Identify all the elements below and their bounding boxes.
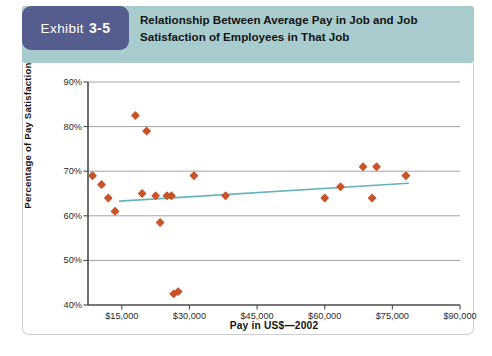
- y-tick-label: 90%: [52, 77, 82, 87]
- y-axis-title: Percentage of Pay Satisfaction: [22, 46, 33, 226]
- exhibit-title: Relationship Between Average Pay in Job …: [140, 12, 460, 45]
- exhibit-figure: Exhibit 3-5 Relationship Between Average…: [0, 0, 492, 356]
- exhibit-label-number: 3-5: [89, 20, 110, 36]
- x-tick-label: $75,000: [376, 311, 409, 321]
- y-tick-label: 50%: [52, 255, 82, 265]
- x-tick-label: $15,000: [105, 311, 138, 321]
- y-tick-label: 60%: [52, 211, 82, 221]
- x-tick-label: $60,000: [308, 311, 341, 321]
- x-tick-label: $45,000: [240, 311, 273, 321]
- y-tick-label: 40%: [52, 300, 82, 310]
- y-tick-label: 70%: [52, 166, 82, 176]
- chart-card: [22, 63, 474, 335]
- x-tick-label: $90,000: [443, 311, 476, 321]
- y-tick-label: 80%: [52, 122, 82, 132]
- x-axis-title: Pay in US$—2002: [88, 320, 460, 331]
- x-tick-label: $30,000: [173, 311, 206, 321]
- exhibit-label-word: Exhibit: [41, 21, 84, 36]
- exhibit-badge: Exhibit 3-5: [22, 6, 129, 50]
